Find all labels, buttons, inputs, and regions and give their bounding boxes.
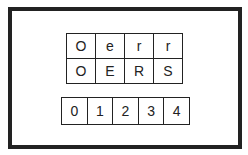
grid-row-lowercase: O e r r — [67, 34, 183, 59]
index-cell: 3 — [138, 98, 164, 125]
grid-cell: R — [125, 59, 154, 84]
index-row: 0 1 2 3 4 — [61, 97, 190, 125]
grid-cell: e — [96, 34, 125, 59]
grid-row-uppercase: O E R S — [67, 59, 183, 84]
index-cell: 4 — [164, 98, 190, 125]
index-row-cells: 0 1 2 3 4 — [62, 98, 190, 125]
grid-cell: r — [125, 34, 154, 59]
index-cell: 2 — [113, 98, 139, 125]
grid-cell: O — [67, 34, 96, 59]
letter-grid: O e r r O E R S — [66, 33, 183, 84]
grid-cell: E — [96, 59, 125, 84]
index-cell: 1 — [87, 98, 113, 125]
index-cell: 0 — [62, 98, 88, 125]
grid-cell: S — [154, 59, 183, 84]
grid-cell: r — [154, 34, 183, 59]
grid-cell: O — [67, 59, 96, 84]
